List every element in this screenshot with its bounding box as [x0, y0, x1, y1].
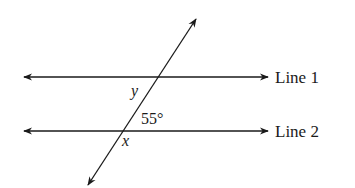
angle-x-label: x — [121, 132, 129, 149]
angle-55-label: 55° — [141, 110, 163, 127]
angle-y-label: y — [129, 82, 139, 100]
line-2-label: Line 2 — [275, 122, 319, 141]
transversal-line — [88, 19, 196, 185]
line-1-label: Line 1 — [275, 68, 319, 87]
parallel-lines-diagram: Line 1 Line 2 y 55° x — [0, 0, 355, 188]
